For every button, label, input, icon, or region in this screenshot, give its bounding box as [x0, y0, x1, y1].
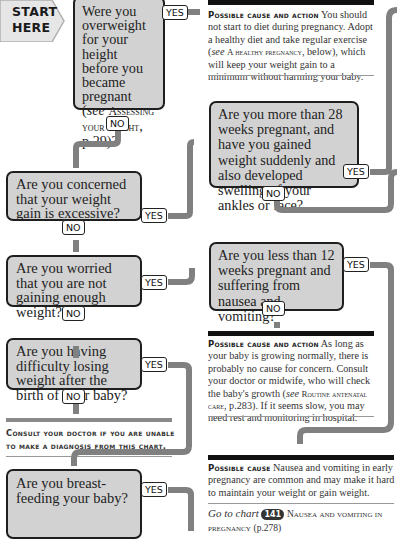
no-button-q6[interactable]: NO [262, 186, 285, 201]
no-button-q7[interactable]: NO [262, 301, 285, 316]
yes-button-q7[interactable]: YES [343, 257, 369, 272]
no-button-q4[interactable]: NO [62, 389, 85, 404]
no-button-q1[interactable]: NO [106, 116, 129, 131]
no-button-q2[interactable]: NO [62, 220, 85, 235]
yes-button-q1[interactable]: YES [162, 5, 188, 20]
no-button-q3[interactable]: NO [62, 306, 85, 321]
yes-button-q4[interactable]: YES [141, 357, 167, 372]
yes-button-q3[interactable]: YES [141, 275, 167, 290]
yes-button-q6[interactable]: YES [343, 164, 369, 179]
yes-button-q5[interactable]: YES [141, 482, 167, 497]
yes-button-q2[interactable]: YES [141, 208, 167, 223]
